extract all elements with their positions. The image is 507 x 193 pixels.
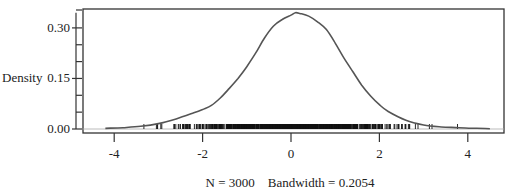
y-tick-label: 0.15 bbox=[47, 70, 70, 85]
density-plot: 0.000.150.30 -4-2024 Density N = 3000 Ba… bbox=[0, 0, 507, 193]
y-axis: 0.000.150.30 bbox=[47, 10, 82, 136]
x-tick-label: -4 bbox=[109, 146, 120, 161]
y-tick-label: 0.00 bbox=[47, 121, 70, 136]
density-curve bbox=[105, 13, 490, 129]
x-tick-label: 4 bbox=[465, 146, 472, 161]
y-axis-label: Density bbox=[2, 70, 43, 85]
x-axis-footer: N = 3000 Bandwidth = 0.2054 bbox=[206, 175, 375, 190]
x-tick-label: -2 bbox=[197, 146, 208, 161]
plot-frame bbox=[83, 9, 504, 133]
x-axis: -4-2024 bbox=[109, 133, 472, 161]
x-tick-label: 0 bbox=[288, 146, 295, 161]
x-tick-label: 2 bbox=[376, 146, 383, 161]
rug-marks bbox=[144, 124, 458, 129]
y-tick-label: 0.30 bbox=[47, 20, 70, 35]
